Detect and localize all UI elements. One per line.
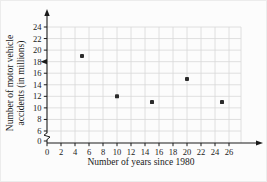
y-tick-label: 0 — [37, 136, 41, 146]
scatter-plot: 0246810121416182022242606810121416182022… — [1, 1, 267, 182]
tick-label-layer: 0246810121416182022242606810121416182022… — [33, 22, 233, 157]
y-tick-label: 14 — [33, 80, 42, 90]
x-tick-label: 24 — [211, 147, 220, 157]
x-axis-arrow-icon — [256, 140, 263, 145]
y-tick-label: 22 — [33, 34, 42, 44]
y-axis-title-line1: Number of motor vehicle — [5, 35, 15, 131]
x-tick-label: 0 — [45, 147, 49, 157]
x-axis-title: Number of years since 1980 — [87, 157, 194, 167]
x-tick-label: 12 — [127, 147, 136, 157]
x-tick-label: 10 — [113, 147, 122, 157]
data-point — [220, 100, 224, 104]
x-tick-label: 22 — [197, 147, 206, 157]
x-tick-label: 6 — [87, 147, 91, 157]
x-tick-label: 16 — [155, 147, 164, 157]
data-point — [80, 54, 84, 58]
x-tick-label: 2 — [59, 147, 63, 157]
x-tick-label: 4 — [73, 147, 78, 157]
y-tick-label: 8 — [37, 114, 41, 124]
y-tick-label: 10 — [33, 103, 42, 113]
data-point — [115, 94, 119, 98]
x-tick-label: 26 — [225, 147, 234, 157]
y-tick-label: 16 — [33, 68, 42, 78]
axis-layer — [41, 9, 264, 146]
x-tick-label: 8 — [101, 147, 105, 157]
data-point — [150, 100, 154, 104]
x-tick-label: 18 — [169, 147, 178, 157]
y-tick-label: 12 — [33, 91, 42, 101]
scatter-plot-figure: 0246810121416182022242606810121416182022… — [0, 0, 267, 182]
y-tick-label: 20 — [33, 45, 42, 55]
y-tick-label: 6 — [37, 126, 41, 136]
x-tick-label: 20 — [183, 147, 192, 157]
y-axis-title-line2: accidents (in millions) — [16, 41, 27, 126]
y-axis-arrow-icon — [44, 9, 49, 16]
y-tick-label: 18 — [33, 57, 42, 67]
grid-layer — [47, 27, 241, 143]
data-point — [185, 77, 189, 81]
x-tick-label: 14 — [141, 147, 150, 157]
y-tick-label: 24 — [33, 22, 42, 32]
